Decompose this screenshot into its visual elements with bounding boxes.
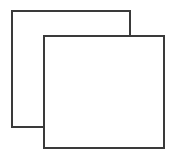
overlapping-squares-diagram bbox=[0, 0, 178, 156]
figure-canvas bbox=[0, 0, 178, 156]
front-square bbox=[44, 36, 164, 148]
